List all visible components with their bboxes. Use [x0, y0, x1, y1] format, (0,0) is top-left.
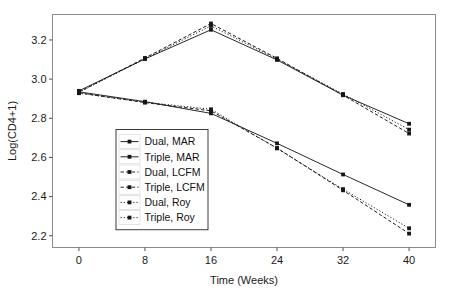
data-point-marker — [275, 57, 279, 61]
legend-item-label: Dual, Roy — [145, 196, 192, 208]
legend-item-triple-roy[interactable]: Triple, Roy — [119, 211, 196, 225]
y-tick-label: 2.8 — [31, 112, 46, 124]
data-point-marker — [407, 128, 411, 132]
data-point-marker — [341, 92, 345, 96]
legend-key-marker — [128, 155, 132, 159]
legend-item-triple-mar[interactable]: Triple, MAR — [119, 150, 200, 164]
chart-container: 2.22.42.62.83.03.2 0816243240 Dual, MART… — [0, 0, 459, 295]
y-tick-label: 3.2 — [31, 34, 46, 46]
x-tick-label: 40 — [403, 254, 415, 266]
data-point-marker — [275, 147, 279, 151]
legend-item-dual-mar[interactable]: Dual, MAR — [119, 135, 196, 149]
legend-item-dual-roy[interactable]: Dual, Roy — [119, 195, 191, 209]
x-axis-title: Time (Weeks) — [210, 274, 278, 286]
data-point-marker — [407, 132, 411, 136]
x-tick-label: 32 — [337, 254, 349, 266]
legend-item-label: Dual, LCFM — [145, 166, 201, 178]
y-tick-label: 2.6 — [31, 151, 46, 163]
data-point-marker — [407, 122, 411, 126]
x-tick-label: 0 — [76, 254, 82, 266]
plot-panel-frame — [53, 15, 436, 248]
chart-legend[interactable]: Dual, MARTriple, MARDual, LCFMTriple, LC… — [116, 130, 208, 230]
x-tick-label: 24 — [271, 254, 283, 266]
data-point-marker — [209, 24, 213, 28]
data-point-marker — [143, 57, 147, 61]
data-point-marker — [143, 100, 147, 104]
legend-item-triple-lcfm[interactable]: Triple, LCFM — [119, 180, 205, 194]
data-point-marker — [407, 232, 411, 236]
legend-key-marker — [128, 170, 132, 174]
data-point-marker — [341, 187, 345, 191]
legend-item-label: Triple, LCFM — [145, 181, 205, 193]
data-point-marker — [209, 107, 213, 111]
legend-item-dual-lcfm[interactable]: Dual, LCFM — [119, 165, 201, 179]
data-point-marker — [275, 141, 279, 145]
legend-item-label: Triple, MAR — [145, 151, 200, 163]
x-tick-label: 16 — [205, 254, 217, 266]
data-point-marker — [77, 91, 81, 95]
legend-item-label: Triple, Roy — [145, 211, 196, 223]
cd4-trajectory-chart: 2.22.42.62.83.03.2 0816243240 Dual, MART… — [0, 0, 459, 295]
legend-key-marker — [128, 140, 132, 144]
legend-key-marker — [128, 201, 132, 205]
y-tick-label: 3.0 — [31, 73, 46, 85]
y-tick-label: 2.4 — [31, 190, 46, 202]
x-tick-label: 8 — [142, 254, 148, 266]
legend-item-label: Dual, MAR — [145, 135, 196, 147]
y-axis-title: Log(CD4+1) — [6, 101, 18, 161]
data-point-marker — [341, 173, 345, 177]
y-tick-label: 2.2 — [31, 230, 46, 242]
legend-key-marker — [128, 185, 132, 189]
data-point-marker — [407, 226, 411, 230]
data-point-marker — [209, 28, 213, 32]
data-point-marker — [407, 203, 411, 207]
legend-key-marker — [128, 216, 132, 220]
